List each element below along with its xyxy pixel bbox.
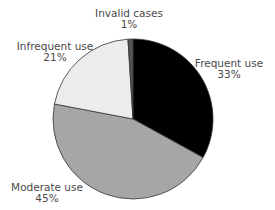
label-frequent-pct: 33%: [195, 69, 263, 80]
label-moderate-pct: 45%: [11, 193, 83, 204]
label-moderate-use: Moderate use 45%: [11, 182, 83, 204]
label-frequent-use: Frequent use 33%: [195, 58, 263, 80]
label-infrequent-use: Infrequent use 21%: [17, 41, 93, 63]
label-invalid-cases: Invalid cases 1%: [95, 8, 163, 30]
label-infrequent-pct: 21%: [17, 52, 93, 63]
label-invalid-pct: 1%: [95, 19, 163, 30]
pie-chart: [0, 0, 275, 210]
